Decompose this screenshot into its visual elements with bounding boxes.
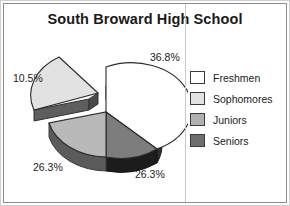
- chart-frame: South Broward High School: [0, 0, 290, 206]
- legend-swatch-juniors: [190, 113, 205, 126]
- legend-swatch-seniors: [190, 134, 205, 147]
- slice-label-freshmen: 36.8%: [150, 51, 180, 63]
- chart-plot-area: South Broward High School: [3, 3, 287, 203]
- legend-label-juniors: Juniors: [213, 114, 247, 126]
- legend-label-sophomores: Sophomores: [213, 93, 273, 105]
- chart-legend: Freshmen Sophomores Juniors Seniors: [190, 67, 287, 151]
- slice-label-seniors: 26.3%: [135, 168, 165, 180]
- slice-label-sophomores: 10.5%: [13, 72, 43, 84]
- pie-chart: 36.8% 10.5% 26.3% 26.3%: [4, 30, 188, 203]
- legend-label-freshmen: Freshmen: [213, 72, 260, 84]
- slice-label-juniors: 26.3%: [33, 161, 63, 173]
- legend-item-juniors: Juniors: [190, 109, 287, 130]
- legend-item-seniors: Seniors: [190, 130, 287, 151]
- legend-label-seniors: Seniors: [213, 135, 249, 147]
- legend-swatch-freshmen: [190, 71, 205, 84]
- legend-item-freshmen: Freshmen: [190, 67, 287, 88]
- legend-swatch-sophomores: [190, 92, 205, 105]
- legend-divider: [185, 4, 186, 202]
- chart-title: South Broward High School: [4, 11, 286, 27]
- legend-item-sophomores: Sophomores: [190, 88, 287, 109]
